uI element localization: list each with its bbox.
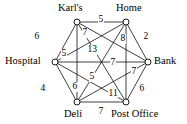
vertex-label-deli: Deli	[64, 109, 82, 120]
graph-diagram-canvas: Karl'sHomeHospitalBankDeliPost Office 56…	[0, 0, 187, 124]
edges-group	[56, 22, 146, 102]
graph-vertex-karls	[74, 19, 80, 25]
graph-vertex-hospital	[52, 59, 58, 65]
edge-weight-deli-home: 11	[108, 89, 118, 99]
graph-vertex-postoffice	[123, 99, 129, 105]
vertex-label-karls: Karl's	[58, 3, 83, 14]
vertex-label-bank: Bank	[154, 56, 176, 67]
graph-vertex-home	[123, 19, 129, 25]
edge-weight-hospital-postoffice: 5	[89, 72, 95, 82]
edge-weight-karls-deli: 6	[72, 82, 78, 92]
edge-weight-hospital-deli: 4	[40, 84, 46, 94]
edge-weight-hospital-bank: 7	[110, 58, 116, 68]
edge-weight-deli-bank: 7	[131, 67, 137, 77]
vertex-label-home: Home	[116, 3, 142, 14]
edge-weight-karls-hospital: 6	[34, 32, 40, 42]
vertex-label-hospital: Hospital	[5, 56, 41, 67]
graph-edge-home-bank	[127, 25, 146, 60]
vertex-label-postoffice: Post Office	[111, 109, 158, 120]
edge-weight-hospital-home: 5	[61, 49, 67, 59]
edge-weight-bank-postoffice: 6	[139, 84, 145, 94]
edge-weight-karls-bank: 7	[82, 28, 88, 38]
edge-weight-deli-postoffice: 7	[98, 107, 104, 117]
edge-weight-karls-home: 5	[98, 15, 104, 25]
edge-weight-home-bank: 2	[143, 32, 149, 42]
edge-weight-home-postoffice: 8	[120, 34, 126, 44]
graph-vertex-deli	[74, 99, 80, 105]
edge-weight-karls-postoffice: 13	[87, 45, 98, 55]
graph-vertex-bank	[145, 59, 151, 65]
